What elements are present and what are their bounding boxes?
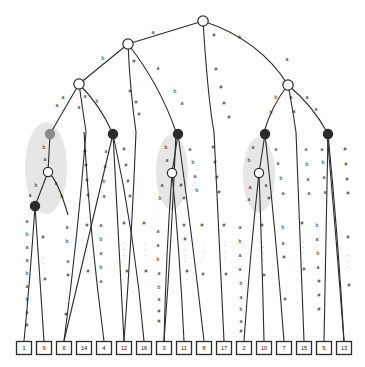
tree-node-open[interactable] <box>283 80 293 90</box>
leaf-label: 16 <box>141 345 147 351</box>
leaf-label: 9 <box>42 345 45 351</box>
tree-node-filled[interactable] <box>173 129 182 138</box>
edge-label: a <box>275 146 278 152</box>
edge-label: a <box>189 146 192 152</box>
leaf-label: 15 <box>301 345 307 351</box>
edge-label: a <box>157 65 160 71</box>
edge-label: # <box>344 146 347 152</box>
tree-node-filled[interactable] <box>260 129 269 138</box>
tree-node-gray[interactable] <box>45 129 54 138</box>
leaf-label: 11 <box>181 345 187 351</box>
leaf-label: 5 <box>322 345 325 351</box>
edge-label: # <box>240 328 243 334</box>
leaf-label: 17 <box>221 345 227 351</box>
tree-edge <box>113 134 124 341</box>
ellipsis-dot: . <box>262 255 263 261</box>
edge-label: b <box>26 296 29 302</box>
edge-label: b <box>316 222 319 228</box>
edge-label: # <box>345 161 348 167</box>
edge-label: # <box>158 308 161 314</box>
edge-label: # <box>346 176 349 182</box>
suffix-tree-figure: a#bb#a#aaabaa###ba###baabaababaab####aab… <box>0 0 365 367</box>
edge-label: # <box>184 236 187 242</box>
ellipsis-dot: . <box>144 251 145 257</box>
edge-label: # <box>127 178 130 184</box>
tree-edge <box>50 84 79 134</box>
edge-label: b <box>248 157 251 163</box>
leaf-label: 8 <box>202 345 205 351</box>
leaf-label: 10 <box>261 345 267 351</box>
tree-edge <box>64 132 86 341</box>
edge-label: a <box>67 258 70 264</box>
edge-label: a <box>152 29 155 35</box>
edge-label: # <box>216 174 219 180</box>
tree-node-open[interactable] <box>74 79 84 89</box>
edge-label: # <box>180 182 183 188</box>
edge-label: # <box>44 276 47 282</box>
tree-node-open[interactable] <box>123 39 133 49</box>
tree-node-open[interactable] <box>254 168 263 177</box>
edge-label: b <box>275 94 278 100</box>
edge-label: a <box>100 278 103 284</box>
edge-label: a <box>315 106 318 112</box>
tree-node-open[interactable] <box>167 168 176 177</box>
edge-label: a <box>26 309 29 315</box>
leaf-label: 1 <box>22 345 25 351</box>
edge-label: a <box>158 296 161 302</box>
tree-node-filled[interactable] <box>323 129 332 138</box>
tree-node-open[interactable] <box>198 16 208 26</box>
edge-label: a <box>161 182 164 188</box>
edge-label: a <box>100 250 103 256</box>
edge-label: # <box>125 162 128 168</box>
edge-label: b <box>317 250 320 256</box>
edge-label: # <box>213 32 216 38</box>
edge-label: b <box>102 55 105 61</box>
leaf-label: 12 <box>121 345 127 351</box>
tree-edge <box>113 134 144 341</box>
leaf-label: 6 <box>62 345 65 351</box>
edge-label: # <box>42 234 45 240</box>
edge-label: b <box>26 270 29 276</box>
edge-label: a <box>56 102 59 108</box>
edge-label: a <box>306 94 309 100</box>
edge-label: a <box>249 184 252 190</box>
leaf-label: 14 <box>81 345 87 351</box>
ellipsis-dot: . <box>202 253 203 259</box>
edge-label: # <box>123 220 126 226</box>
highlight-blob-group <box>25 122 275 214</box>
edge-label: b <box>322 159 325 165</box>
tree-node-filled[interactable] <box>108 129 117 138</box>
edge-label: # <box>86 222 89 228</box>
edge-label: # <box>85 162 88 168</box>
edge-label: # <box>212 144 215 150</box>
edge-label: a <box>282 240 285 246</box>
ellipsis-dot: . <box>66 299 67 305</box>
edge-label: # <box>261 222 264 228</box>
tree-edge <box>35 206 44 341</box>
ellipsis-dot: . <box>42 265 43 271</box>
edge-label: a <box>277 160 280 166</box>
edge-label: b <box>35 182 38 188</box>
edge-label: a <box>316 236 319 242</box>
edge-label: b <box>174 88 177 94</box>
edge-label: # <box>214 159 217 165</box>
edge-label: # <box>218 189 221 195</box>
edge-label: b <box>270 109 273 115</box>
tree-edge <box>79 84 112 132</box>
edge-label: b <box>61 193 64 199</box>
leaf-label: 3 <box>162 345 165 351</box>
edge-label: a <box>286 56 289 62</box>
edge-label: # <box>158 318 161 324</box>
ellipsis-dot: . <box>347 263 348 269</box>
edge-label: b <box>192 159 195 165</box>
edge-label: # <box>220 84 223 90</box>
ellipsis-dot: . <box>86 253 87 259</box>
edge-label: b <box>103 178 106 184</box>
edge-label: # <box>347 190 350 196</box>
tree-edge <box>327 132 344 341</box>
edge-label: a <box>307 176 310 182</box>
edge-label: a <box>166 157 169 163</box>
tree-node-open[interactable] <box>43 167 52 176</box>
tree-node-filled[interactable] <box>30 201 39 210</box>
leaf-label: 4 <box>102 345 105 351</box>
